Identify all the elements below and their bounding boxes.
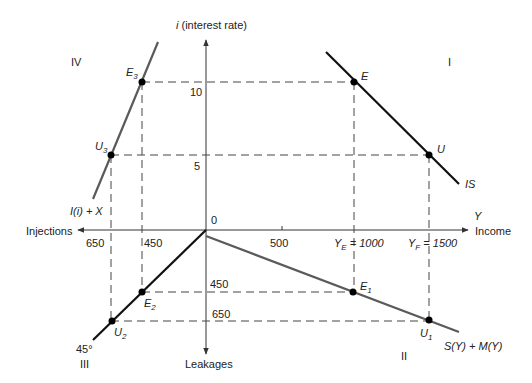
point-u: [426, 152, 433, 159]
axes: [78, 40, 468, 354]
u1-sub: 1: [428, 333, 432, 342]
point-e: [351, 79, 358, 86]
angle-label: 45°: [76, 343, 93, 355]
injections-curve-label: I(i) + X: [70, 205, 103, 217]
u3-sub: 3: [103, 146, 107, 155]
u1-sym: U: [420, 327, 428, 339]
injections-label: Injections: [26, 225, 72, 237]
tick-i-5: 5: [194, 160, 200, 172]
point-e3: [139, 79, 146, 86]
interest-text: (interest rate): [178, 19, 246, 31]
tick-yf: YF = 1500: [408, 237, 457, 249]
tick-inj-450: 450: [144, 237, 162, 249]
tick-leak-450: 450: [210, 278, 228, 290]
point-e1-label: E1: [360, 280, 372, 292]
point-e3-label: E3: [126, 66, 138, 78]
point-u3: [108, 152, 115, 159]
point-u-label: U: [437, 143, 445, 155]
leakages-curve: [206, 236, 459, 332]
u3-sym: U: [95, 140, 103, 152]
quadrant-2-label: II: [401, 350, 407, 362]
points: [108, 79, 433, 325]
e1-sub: 1: [367, 286, 371, 295]
quadrant-1-label: I: [448, 56, 451, 68]
ye-value: = 1000: [347, 237, 384, 249]
quadrant-3-label: III: [80, 358, 89, 370]
income-label: Income: [475, 225, 511, 237]
is-curve: [326, 52, 459, 184]
origin-label: 0: [211, 214, 217, 226]
leakages-curve-label: S(Y) + M(Y): [444, 340, 502, 352]
point-u1-label: U1: [420, 327, 432, 339]
is-curve-label: IS: [465, 178, 475, 190]
point-u2: [109, 318, 116, 325]
point-e2: [139, 289, 146, 296]
tick-i-10: 10: [190, 86, 202, 98]
vertical-axis-label: i (interest rate): [176, 19, 247, 31]
tick-y-500: 500: [270, 237, 288, 249]
e3-sub: 3: [133, 72, 137, 81]
point-e1: [350, 289, 357, 296]
tick-inj-650: 650: [86, 237, 104, 249]
point-u3-label: U3: [95, 140, 107, 152]
point-e-label: E: [361, 70, 368, 82]
tick-ye: YE = 1000: [334, 237, 384, 249]
point-u1: [426, 317, 433, 324]
leakages-label: Leakages: [185, 358, 233, 370]
guide-lines: [111, 82, 429, 321]
point-u2-label: U2: [114, 326, 126, 338]
point-e2-label: E2: [144, 297, 156, 309]
e2-sub: 2: [151, 303, 155, 312]
income-symbol: Y: [474, 210, 481, 222]
u2-sym: U: [114, 326, 122, 338]
u2-sub: 2: [122, 332, 126, 341]
tick-leak-650: 650: [212, 308, 230, 320]
yf-value: = 1500: [420, 237, 457, 249]
quadrant-4-label: IV: [71, 56, 81, 68]
